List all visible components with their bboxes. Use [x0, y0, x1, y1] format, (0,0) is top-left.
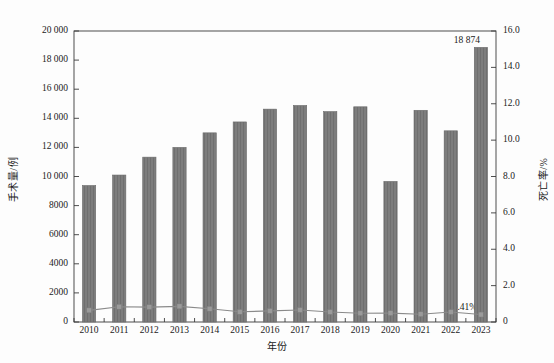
bar-2022 [444, 131, 457, 322]
line-marker-2011 [117, 304, 122, 309]
line-marker-2017 [298, 307, 303, 312]
bar-2018 [324, 112, 337, 322]
bar-2012 [143, 157, 156, 322]
line-marker-2016 [267, 308, 272, 313]
bar-2017 [293, 105, 306, 322]
line-marker-2019 [358, 311, 363, 316]
bar-2015 [233, 122, 246, 322]
bar-2020 [384, 181, 397, 322]
bar-2016 [263, 109, 276, 322]
bar-series [82, 47, 487, 322]
line-marker-2010 [87, 308, 92, 313]
bar-2019 [354, 107, 367, 322]
axis-frame [74, 31, 496, 322]
line-marker-2023 [478, 312, 483, 317]
bar-2011 [113, 175, 126, 322]
bar-2021 [414, 110, 427, 322]
line-marker-2013 [177, 304, 182, 309]
bar-2013 [173, 147, 186, 322]
chart-figure: 手术量/例 死亡率/% 年份 0200040006000800010 00012… [0, 0, 554, 363]
line-marker-2014 [207, 306, 212, 311]
line-marker-2022 [448, 309, 453, 314]
bar-2010 [82, 186, 95, 322]
plot-area [0, 0, 554, 363]
line-marker-2021 [418, 312, 423, 317]
line-marker-2020 [388, 311, 393, 316]
line-marker-2012 [147, 305, 152, 310]
line-marker-2018 [328, 309, 333, 314]
bar-2023 [474, 47, 487, 322]
line-marker-2015 [237, 309, 242, 314]
bar-2014 [203, 133, 216, 322]
